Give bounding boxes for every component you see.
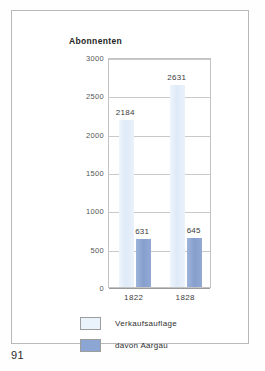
bar-value-label: 2184 xyxy=(116,108,135,117)
chart-title: Abonnenten xyxy=(69,36,122,46)
bar-value-label: 645 xyxy=(187,226,201,235)
y-tick-2000: 2000 xyxy=(64,130,104,139)
y-axis-tick-labels: 300025002000150010005000 xyxy=(62,58,104,288)
bar-1828-verkaufsauflage xyxy=(170,85,185,287)
y-tick-0: 0 xyxy=(64,284,104,293)
page-root: Abonnenten 300025002000150010005000 2184… xyxy=(0,0,265,371)
legend-item-verkaufsauflage: Verkaufsauflage xyxy=(80,315,240,332)
y-tick-1000: 1000 xyxy=(64,207,104,216)
bar-value-label: 631 xyxy=(135,227,149,236)
legend-item-aargau: davon Aargau xyxy=(80,337,240,354)
bar-1822-verkaufsauflage xyxy=(119,120,134,287)
gridline-0 xyxy=(109,288,210,289)
y-tick-3000: 3000 xyxy=(64,54,104,63)
gridline-3000 xyxy=(109,59,210,60)
figure-card: Abonnenten 300025002000150010005000 2184… xyxy=(11,10,249,344)
bar-1828-aargau xyxy=(187,238,202,287)
gridline-2500 xyxy=(109,97,210,98)
plot-area xyxy=(108,58,211,288)
bar-value-label: 2631 xyxy=(167,73,186,82)
y-tick-500: 500 xyxy=(64,245,104,254)
page-number: 91 xyxy=(11,349,24,361)
chart-legend: Verkaufsauflagedavon Aargau xyxy=(80,315,240,359)
x-axis-category-labels: 18221828 xyxy=(108,293,211,307)
y-tick-1500: 1500 xyxy=(64,169,104,178)
legend-swatch-icon xyxy=(80,339,101,352)
legend-swatch-icon xyxy=(80,317,101,330)
bar-1822-aargau xyxy=(136,239,151,287)
x-category-1822: 1822 xyxy=(124,293,143,302)
legend-label: Verkaufsauflage xyxy=(115,319,177,328)
y-tick-2500: 2500 xyxy=(64,92,104,101)
legend-label: davon Aargau xyxy=(115,341,168,350)
x-category-1828: 1828 xyxy=(176,293,195,302)
